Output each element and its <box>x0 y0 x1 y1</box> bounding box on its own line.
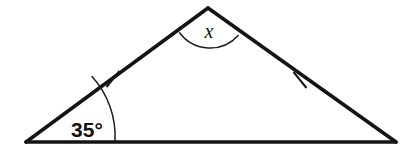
congruence-tick-left-leg-icon <box>107 71 120 87</box>
apex-angle-label: x <box>204 20 214 42</box>
geometry-diagram-canvas: 35° x <box>0 0 412 158</box>
base-angle-label: 35° <box>71 118 103 141</box>
triangle-side-right-leg <box>208 8 396 142</box>
triangle-figure: 35° x <box>0 0 412 158</box>
